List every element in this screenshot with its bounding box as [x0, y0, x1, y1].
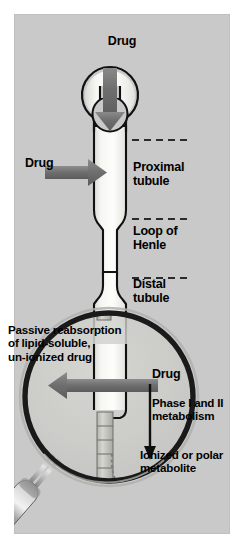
label-passive-reabsorption: Passive reabsorption of lipid-soluble, u…	[8, 323, 121, 363]
label-ionized-metabolite: Ionized or polar metabolite	[140, 448, 223, 475]
reabsorption-arrow-shaft	[63, 379, 158, 392]
label-distal-tubule: Distal tubule	[133, 277, 169, 306]
recycle-arrow-head	[131, 482, 146, 500]
label-proximal-tubule: Proximal tubule	[133, 160, 184, 189]
filtration-arrow-shaft	[103, 68, 117, 116]
label-drug-bottom: Drug	[152, 367, 180, 381]
label-phase-metabolism: Phase I and II metabolism	[152, 396, 223, 423]
label-drug-top: Drug	[0, 34, 244, 48]
label-loop-of-henle: Loop of Henle	[133, 224, 177, 253]
proximal-tubule-segment	[94, 126, 126, 276]
collecting-duct-body	[97, 412, 113, 512]
label-drug-left: Drug	[25, 156, 53, 170]
nephron-diagram-figure: Drug Drug Proximal tubule Loop of Henle …	[0, 0, 244, 548]
